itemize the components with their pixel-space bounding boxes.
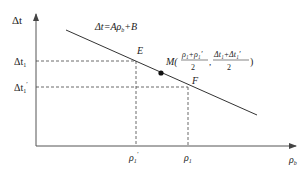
y-axis-label: Δt [12,14,22,26]
point-e-label: E [136,45,143,56]
midpoint-m-dot [158,70,163,75]
svg-text:ρ₁+ρ₁′: ρ₁+ρ₁′ [181,50,203,59]
y-tick-delta-t1-prime: Δt1′ [14,80,28,94]
point-m-label: M( ρ₁+ρ₁′ 2 , Δt₁+Δt₁′ 2 ) [165,50,253,72]
svg-text:): ) [250,56,253,68]
y-tick-delta-t1: Δt1 [14,56,26,68]
svg-text:2: 2 [191,63,195,72]
x-tick-rho1-prime: ρ1′ [128,150,139,164]
svg-text:2: 2 [227,63,231,72]
line-equation: Δt=Aρb+B [94,21,137,33]
svg-text:Δt₁+Δt₁′: Δt₁+Δt₁′ [213,50,241,59]
x-axis-label: ρb [288,154,297,166]
x-tick-rho1: ρ1 [183,152,192,164]
delta-t-vs-rho-diagram: Δt ρb Δt=Aρb+B E F M( ρ₁+ρ₁′ 2 , Δt₁+Δt₁… [0,0,308,171]
point-f-label: F [191,75,199,86]
svg-text:M(: M( [165,56,178,68]
svg-text:,: , [209,57,211,67]
